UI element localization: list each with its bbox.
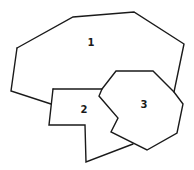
region-3-boundary <box>99 71 183 150</box>
region-2-left-boundary <box>49 89 133 162</box>
region-1-label: 1 <box>88 37 95 48</box>
region-2-label: 2 <box>81 104 88 115</box>
region-diagram: 1 2 3 <box>0 0 194 170</box>
region-3-label: 3 <box>141 99 148 110</box>
region-1-outer-boundary <box>17 12 184 92</box>
region-1-left-boundary <box>11 48 51 104</box>
